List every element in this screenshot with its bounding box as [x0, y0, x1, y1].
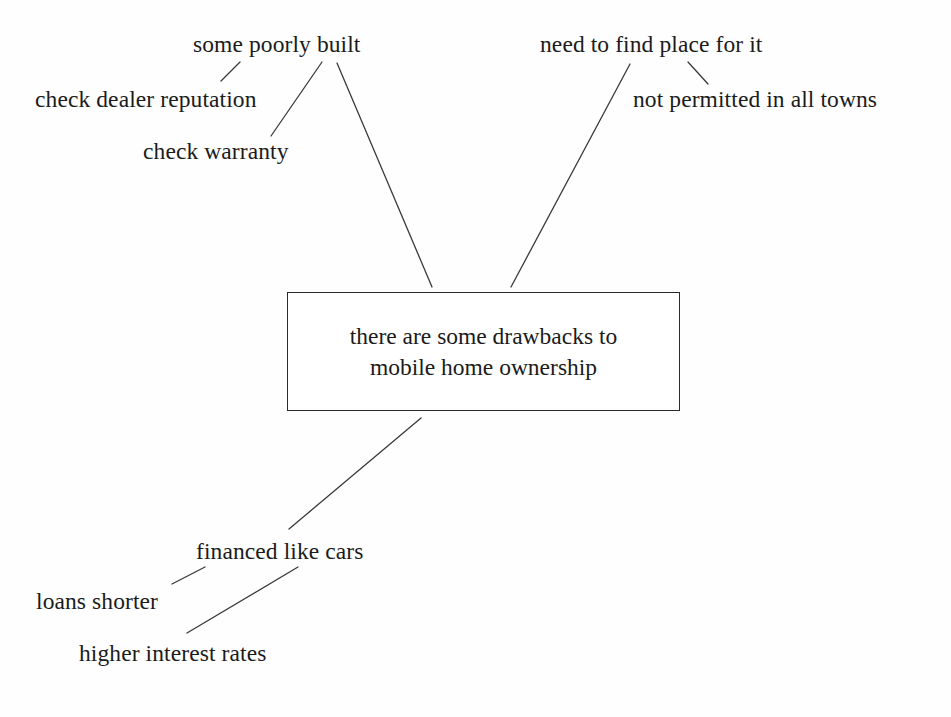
- node-financed-like-cars[interactable]: financed like cars: [196, 538, 364, 566]
- edge-loans-shorter-to-financed: [172, 567, 205, 584]
- node-check-warranty[interactable]: check warranty: [143, 138, 289, 166]
- edge-higher-rates-to-financed: [187, 567, 298, 633]
- edge-warranty-to-poorly-built: [271, 62, 322, 136]
- node-not-permitted-in-all-towns[interactable]: not permitted in all towns: [633, 86, 877, 114]
- concept-map-canvas: there are some drawbacks to mobile home …: [0, 0, 951, 717]
- edge-center-to-financed: [289, 418, 421, 529]
- edge-poorly-built-to-center: [337, 63, 432, 287]
- node-check-dealer-reputation[interactable]: check dealer reputation: [35, 86, 257, 114]
- node-higher-interest-rates[interactable]: higher interest rates: [79, 640, 266, 668]
- edge-not-permitted-to-find-place: [688, 62, 708, 84]
- node-need-to-find-place-for-it[interactable]: need to find place for it: [540, 31, 762, 59]
- node-some-poorly-built[interactable]: some poorly built: [193, 31, 361, 59]
- central-node[interactable]: there are some drawbacks to mobile home …: [287, 292, 680, 411]
- central-node-label: there are some drawbacks to mobile home …: [340, 321, 628, 382]
- node-loans-shorter[interactable]: loans shorter: [36, 588, 158, 616]
- edge-find-place-to-center: [511, 64, 630, 287]
- edge-dealer-reputation-to-poorly-built: [221, 62, 240, 81]
